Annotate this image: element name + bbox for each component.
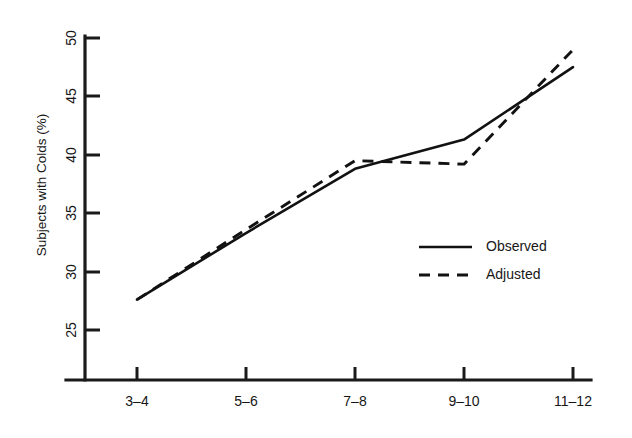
chart-background [0, 0, 632, 438]
y-tick-label-35: 35 [63, 205, 79, 221]
x-tick-label-11-12: 11–12 [554, 393, 592, 409]
line-chart: 50 45 40 35 30 25 Subjects with Colds (%… [0, 0, 632, 438]
legend-label-observed: Observed [486, 238, 547, 254]
chart-figure: 50 45 40 35 30 25 Subjects with Colds (%… [0, 0, 632, 438]
legend-label-adjusted: Adjusted [486, 266, 540, 282]
x-tick-label-7-8: 7–8 [343, 393, 367, 409]
y-axis-title: Subjects with Colds (%) [34, 114, 49, 257]
y-tick-label-25: 25 [63, 322, 79, 338]
x-tick-label-3-4: 3–4 [125, 393, 149, 409]
y-tick-label-50: 50 [63, 30, 79, 46]
y-tick-label-45: 45 [63, 88, 79, 104]
x-tick-label-5-6: 5–6 [234, 393, 258, 409]
x-tick-label-9-10: 9–10 [448, 393, 479, 409]
y-tick-label-30: 30 [63, 264, 79, 280]
y-tick-label-40: 40 [63, 147, 79, 163]
